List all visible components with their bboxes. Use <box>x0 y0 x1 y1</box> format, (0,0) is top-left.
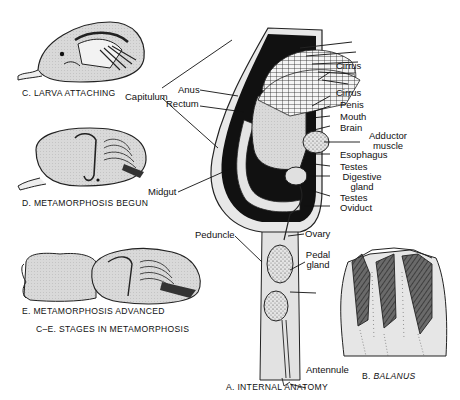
label-ovary: Ovary <box>305 229 330 239</box>
label-digestive-gland: Digestive gland <box>338 172 386 192</box>
caption-metamorphosis-advanced: E. METAMORPHOSIS ADVANCED <box>22 306 165 316</box>
caption-balanus-name: BALANUS <box>373 371 415 381</box>
label-capitulum: Capitulum <box>125 92 168 102</box>
balanus-drawing <box>341 248 447 356</box>
caption-internal-anatomy: A. INTERNAL ANATOMY <box>226 382 328 392</box>
label-pedal-line2: gland <box>303 260 333 270</box>
label-digestive-line2: gland <box>338 182 386 192</box>
label-pedal-gland: Pedal gland <box>303 250 333 270</box>
larva-attaching-drawing <box>18 22 144 82</box>
label-adductor-muscle: Adductor muscle <box>363 131 413 151</box>
label-mouth: Mouth <box>340 112 366 122</box>
caption-balanus-prefix: B. <box>362 371 373 381</box>
caption-metamorphosis-begun: D. METAMORPHOSIS BEGUN <box>22 198 148 208</box>
label-peduncle: Peduncle <box>195 230 235 240</box>
label-rectum: Rectum <box>166 99 199 109</box>
caption-larva-attaching: C. LARVA ATTACHING <box>22 88 116 98</box>
label-midgut: Midgut <box>148 187 177 197</box>
label-anus: Anus <box>178 85 200 95</box>
label-oviduct: Oviduct <box>340 203 372 213</box>
caption-stages-in-metamorphosis: C–E. STAGES IN METAMORPHOSIS <box>36 324 189 334</box>
label-cirrus-lower: Cirrus <box>336 88 361 98</box>
label-cirrus-upper: Cirrus <box>336 61 361 71</box>
internal-anatomy-drawing <box>211 28 360 386</box>
label-brain: Brain <box>340 123 362 133</box>
caption-balanus: B. BALANUS <box>362 371 416 381</box>
metamorphosis-advanced-drawing <box>22 249 200 304</box>
label-penis: Penis <box>340 100 364 110</box>
metamorphosis-begun-drawing <box>18 128 146 190</box>
label-antennule: Antennule <box>306 365 349 375</box>
label-esophagus: Esophagus <box>340 150 388 160</box>
